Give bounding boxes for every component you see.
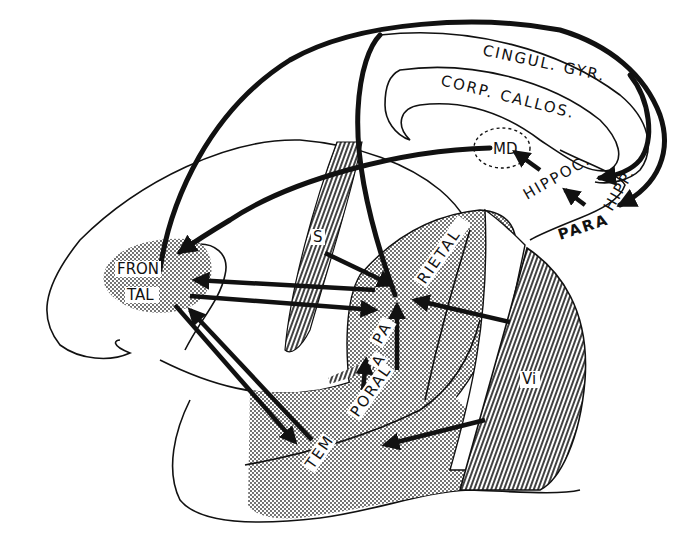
label-somatic: S bbox=[311, 228, 325, 246]
connection-cingulate-parahipp bbox=[600, 75, 649, 178]
connection-frontal-parietal bbox=[190, 296, 375, 310]
brain-connection-diagram: CINGUL. GYR. CORP. CALLOS. MD HIPPOC. PA… bbox=[0, 0, 696, 549]
label-visual: Vi bbox=[520, 370, 540, 388]
svg-text:FRON: FRON bbox=[117, 260, 159, 278]
svg-text:CORP. CALLOS.: CORP. CALLOS. bbox=[439, 71, 577, 122]
connection-hippoc-md bbox=[515, 152, 540, 170]
svg-text:HIPPOC.: HIPPOC. bbox=[520, 150, 594, 203]
label-parahipp-a: PARA bbox=[556, 210, 611, 243]
label-md: MD bbox=[493, 140, 518, 158]
label-parahipp-b: HIPP. bbox=[600, 165, 639, 214]
label-hippocampus: HIPPOC. bbox=[520, 150, 594, 203]
svg-text:MD: MD bbox=[493, 140, 518, 158]
label-frontal-a: FRON bbox=[115, 260, 161, 278]
svg-text:TAL: TAL bbox=[126, 286, 154, 304]
svg-text:Vi: Vi bbox=[522, 370, 536, 388]
svg-text:CINGUL. GYR.: CINGUL. GYR. bbox=[481, 41, 607, 85]
svg-text:S: S bbox=[313, 228, 325, 246]
svg-text:HIPP.: HIPP. bbox=[600, 165, 639, 214]
label-callosum: CORP. CALLOS. bbox=[439, 71, 577, 122]
connection-parahipp-hippoc bbox=[565, 190, 585, 205]
connection-frontal-temporal bbox=[175, 305, 295, 442]
label-frontal-b: TAL bbox=[125, 286, 159, 304]
svg-text:PARA: PARA bbox=[556, 210, 611, 243]
label-cingulate: CINGUL. GYR. bbox=[481, 41, 607, 85]
